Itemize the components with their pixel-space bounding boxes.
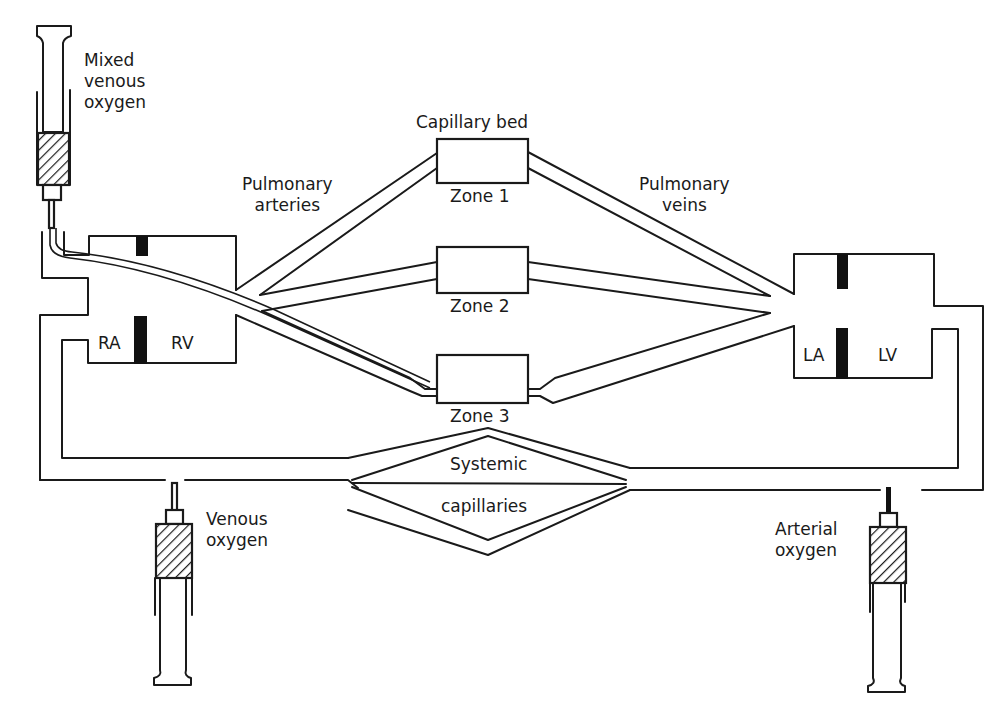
- rv-label: RV: [171, 333, 194, 354]
- label-line: oxygen: [84, 92, 146, 113]
- zone1-label: Zone 1: [450, 186, 510, 207]
- arterial-oxygen-label: Arterial oxygen: [775, 519, 838, 561]
- label-line: arteries: [242, 195, 333, 216]
- mixed-venous-oxygen-label: Mixed venous oxygen: [84, 50, 146, 113]
- label-line: venous: [84, 71, 146, 92]
- label-line: Pulmonary: [639, 174, 730, 195]
- capillaries-label: capillaries: [441, 496, 527, 517]
- systemic-label: Systemic: [450, 454, 527, 475]
- label-line: Mixed: [84, 50, 146, 71]
- zone2-label: Zone 2: [450, 296, 510, 317]
- label-line: Arterial: [775, 519, 838, 540]
- label-line: Pulmonary: [242, 174, 333, 195]
- capillary-bed-label: Capillary bed: [416, 112, 528, 133]
- label-line: veins: [639, 195, 730, 216]
- ra-label: RA: [98, 333, 121, 354]
- lv-label: LV: [878, 345, 897, 366]
- label-line: Venous: [206, 509, 268, 530]
- pulmonary-veins-label: Pulmonary veins: [639, 174, 730, 216]
- la-label: LA: [803, 345, 825, 366]
- label-line: oxygen: [206, 530, 268, 551]
- left-heart: [630, 254, 983, 490]
- label-line: oxygen: [775, 540, 838, 561]
- arterial-syringe: [868, 487, 906, 692]
- zone1-capillary-box: [437, 139, 528, 183]
- right-heart: [40, 228, 430, 480]
- venous-syringe: [154, 483, 192, 685]
- zone2-capillary-box: [437, 247, 528, 293]
- mixed-venous-syringe: [37, 26, 71, 228]
- zone3-capillary-box: [437, 355, 528, 403]
- zone3-label: Zone 3: [450, 406, 510, 427]
- pulmonary-arteries-label: Pulmonary arteries: [242, 174, 333, 216]
- venous-oxygen-label: Venous oxygen: [206, 509, 268, 551]
- circulation-diagram: [0, 0, 1006, 718]
